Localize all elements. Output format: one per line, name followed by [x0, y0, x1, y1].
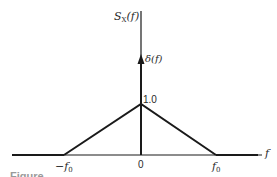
y-axis-label-main: S [114, 10, 122, 23]
figure-caption: Figure [10, 171, 44, 177]
tick-pos-f0: f0 [212, 161, 221, 174]
tick-zero: 0 [138, 160, 144, 170]
y-axis-label: SX(f) [114, 11, 139, 24]
peak-value-label: 1.0 [143, 95, 157, 105]
psd-diagram: SX(f) δ(f) 1.0 −f0 0 f0 f Figure [0, 0, 277, 177]
tick-neg-f0-main: −f [55, 160, 68, 173]
impulse-arrowhead-icon [138, 54, 145, 64]
y-axis-label-arg: (f) [127, 10, 140, 23]
tick-neg-f0-subscript: 0 [68, 166, 72, 174]
tick-neg-f0: −f0 [55, 161, 73, 174]
impulse-label: δ(f) [145, 54, 163, 64]
diagram-graphics [0, 0, 277, 177]
tick-pos-f0-subscript: 0 [216, 166, 220, 174]
x-axis-label: f [265, 148, 269, 159]
